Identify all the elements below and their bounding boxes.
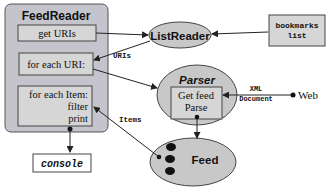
bookmarks-list-component: bookmarks list [269, 15, 325, 46]
feedreader-architecture-diagram: FeedReader get URIs for each URI: for ea… [0, 0, 331, 192]
edge-label-uris: URIs [113, 52, 132, 60]
parser-title: Parser [179, 74, 215, 86]
get-uris-label: get URIs [38, 28, 76, 39]
edge-label-items: Items [119, 116, 142, 124]
for-each-uri-label: for each URI: [27, 59, 85, 70]
feed-item-dot [166, 143, 176, 151]
listreader-component: ListReader [149, 22, 211, 48]
console-component: console [33, 127, 91, 173]
feedreader-component: FeedReader get URIs for each URI: for ea… [5, 4, 108, 132]
edge-bookmarks-to-listreader [212, 32, 268, 34]
feed-item-dot [165, 155, 175, 163]
parser-get-feed-label: Get feed [178, 90, 215, 101]
feed-label: Feed [192, 154, 219, 166]
parser-parse-label: Parse [185, 102, 208, 113]
edge-label-xml: XML [250, 85, 263, 93]
web-label: Web [298, 89, 318, 101]
feed-component: Feed [150, 138, 236, 186]
print-label: print [68, 113, 88, 124]
feedreader-title: FeedReader [22, 9, 91, 23]
filter-label: filter [68, 101, 89, 112]
feed-item-dot [165, 167, 175, 175]
edge-label-document: Document [239, 95, 273, 103]
for-each-item-label: for each Item: [29, 89, 88, 100]
web-source: Web [291, 89, 319, 101]
listreader-label: ListReader [150, 30, 210, 42]
bookmarks-label-line1: bookmarks [275, 21, 318, 30]
console-label: console [41, 159, 83, 170]
bookmarks-label-line2: list [287, 31, 306, 40]
